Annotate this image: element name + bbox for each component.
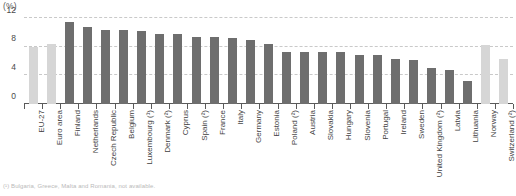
x-axis-label: Finland xyxy=(73,110,82,137)
x-axis-tick-mark xyxy=(24,104,25,109)
bar xyxy=(228,38,237,104)
x-axis-label: EU-27 xyxy=(37,110,46,134)
bar xyxy=(300,52,309,104)
x-axis-label-text: Italy xyxy=(236,110,245,126)
x-axis-label: Lithuania xyxy=(471,110,480,143)
y-axis-tick-label: 12 xyxy=(0,6,16,15)
x-axis-label-text: Estonia xyxy=(272,110,281,138)
bar xyxy=(264,44,273,104)
bar xyxy=(65,22,74,104)
bar xyxy=(427,68,436,104)
x-axis-tick-mark xyxy=(259,104,260,109)
x-axis-tick-mark xyxy=(314,104,315,109)
x-axis-tick-mark xyxy=(115,104,116,109)
x-axis-tick-mark xyxy=(477,104,478,109)
bar xyxy=(409,60,418,104)
x-axis-label-text: France xyxy=(218,110,227,136)
bar xyxy=(246,40,255,105)
x-axis-label-text: Czech Republic xyxy=(109,110,118,167)
x-axis-tick-mark xyxy=(386,104,387,109)
x-axis-label: Slovenia xyxy=(363,110,372,142)
x-axis-label: Norway xyxy=(489,110,498,138)
x-axis-label: Ireland xyxy=(399,110,408,135)
x-axis-tick-mark xyxy=(60,104,61,109)
bar xyxy=(355,55,364,104)
x-axis-tick-mark xyxy=(422,104,423,109)
x-axis-label: Poland (²) xyxy=(290,110,299,146)
bar xyxy=(137,31,146,104)
x-axis-label-text: Belgium xyxy=(127,110,136,140)
x-axis-label-text: Germany xyxy=(254,110,263,144)
x-axis-label-text: Finland xyxy=(73,110,82,137)
x-axis-label-text: Slovakia xyxy=(326,110,335,141)
x-axis-tick-mark xyxy=(78,104,79,109)
x-axis-label-text: Luxembourg (¹) xyxy=(145,110,154,166)
bar xyxy=(445,70,454,104)
x-axis-label-text: Latvia xyxy=(453,110,462,132)
x-axis-tick-mark xyxy=(495,104,496,109)
bar xyxy=(29,47,38,104)
x-axis-label: Czech Republic xyxy=(109,110,118,167)
x-axis-label-text: Sweden xyxy=(417,110,426,140)
x-axis-label-text: Switzerland (²) xyxy=(507,110,516,163)
x-axis-tick-mark xyxy=(332,104,333,109)
bar xyxy=(192,37,201,104)
x-axis-label: Slovakia xyxy=(326,110,335,141)
bar xyxy=(481,45,490,104)
x-axis-label: Austria xyxy=(308,110,317,136)
bar xyxy=(210,37,219,104)
x-axis-tick-mark xyxy=(42,104,43,109)
x-axis-tick-mark xyxy=(404,104,405,109)
bar xyxy=(391,59,400,104)
x-axis-label: United Kingdom (²) xyxy=(435,110,444,178)
x-axis-label-text: Slovenia xyxy=(363,110,372,142)
x-axis-tick-marks xyxy=(24,104,513,109)
x-axis-label: Switzerland (²) xyxy=(507,110,516,163)
x-axis-label: Euro area xyxy=(55,110,64,146)
x-axis-label: Luxembourg (¹) xyxy=(145,110,154,166)
x-axis-tick-mark xyxy=(151,104,152,109)
y-axis-tick-label: 8 xyxy=(0,34,16,43)
x-axis-tick-mark xyxy=(368,104,369,109)
x-axis-tick-mark xyxy=(296,104,297,109)
x-axis-label: Portugal xyxy=(381,110,390,141)
bar xyxy=(47,44,56,104)
bar xyxy=(373,55,382,104)
x-axis-label-text: EU-27 xyxy=(37,110,46,134)
y-axis-tick-label: 4 xyxy=(0,63,16,72)
bar xyxy=(336,52,345,104)
x-axis-label: France xyxy=(218,110,227,136)
x-axis-tick-mark xyxy=(96,104,97,109)
x-axis-label: Spain (²) xyxy=(200,110,209,142)
x-axis-tick-mark xyxy=(513,104,514,109)
bar xyxy=(155,34,164,104)
x-axis-label: Hungary xyxy=(344,110,353,141)
x-axis-tick-mark xyxy=(223,104,224,109)
x-axis-tick-mark xyxy=(350,104,351,109)
x-axis-label-text: Poland (²) xyxy=(290,110,299,146)
x-axis-tick-mark xyxy=(241,104,242,109)
x-axis-label-text: Netherlands xyxy=(91,110,100,154)
chart-footnote: (¹) Bulgaria, Greece, Malta and Romania,… xyxy=(3,183,155,189)
x-axis-label: Belgium xyxy=(127,110,136,140)
bar xyxy=(318,52,327,104)
x-axis-label-text: Portugal xyxy=(381,110,390,141)
x-axis-label: Germany xyxy=(254,110,263,144)
x-axis-category-labels: EU-27Euro areaFinlandNetherlandsCzech Re… xyxy=(24,110,513,176)
x-axis-label: Latvia xyxy=(453,110,462,132)
bars-layer xyxy=(24,18,513,104)
x-axis-tick-mark xyxy=(133,104,134,109)
x-axis-label-text: Ireland xyxy=(399,110,408,135)
x-axis-label: Netherlands xyxy=(91,110,100,154)
x-axis-label: Cyprus xyxy=(181,110,190,136)
x-axis-tick-mark xyxy=(169,104,170,109)
bar xyxy=(463,81,472,104)
y-axis-tick-label: 0 xyxy=(0,92,16,101)
x-axis-label-text: Lithuania xyxy=(471,110,480,143)
x-axis-label-text: Hungary xyxy=(344,110,353,141)
x-axis-tick-mark xyxy=(441,104,442,109)
x-axis-label-text: Norway xyxy=(489,110,498,138)
bar xyxy=(119,30,128,104)
bar xyxy=(173,34,182,104)
